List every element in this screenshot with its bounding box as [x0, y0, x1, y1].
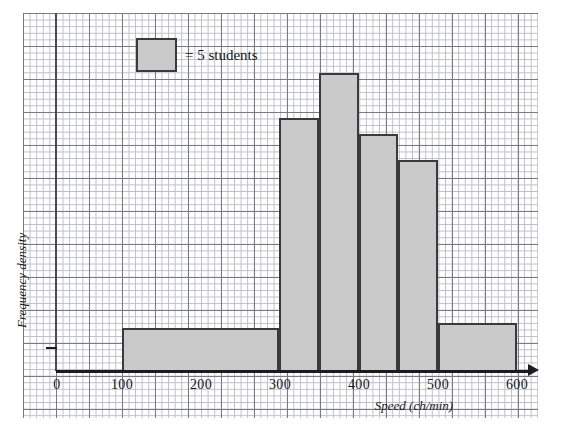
- x-tick-label-600: 600: [506, 377, 528, 393]
- histogram-bar: [438, 323, 517, 373]
- legend-swatch: [136, 38, 177, 72]
- histogram-bar: [398, 160, 438, 373]
- x-axis-arrow-icon: [528, 364, 539, 376]
- histogram-bar: [319, 73, 359, 373]
- x-tick-label-200: 200: [190, 377, 212, 393]
- x-tick-label-500: 500: [427, 377, 449, 393]
- histogram-bar: [122, 328, 279, 373]
- x-tick-label-0: 0: [53, 377, 60, 393]
- plot-area: 0 100 200 300 400 500 600 Speed (ch/min)…: [0, 0, 569, 435]
- histogram-chart: 0 100 200 300 400 500 600 Speed (ch/min)…: [0, 0, 569, 435]
- x-tick-label-400: 400: [348, 377, 370, 393]
- x-tick-label-100: 100: [111, 377, 133, 393]
- y-axis-tick: [46, 347, 57, 349]
- legend-label: = 5 students: [185, 47, 258, 64]
- x-tick-label-300: 300: [269, 377, 291, 393]
- legend: = 5 students: [136, 38, 258, 72]
- histogram-bar: [279, 118, 319, 373]
- y-axis-label: Frequency density: [14, 233, 30, 328]
- histogram-bar: [359, 134, 398, 373]
- x-axis: [56, 370, 530, 373]
- x-axis-label: Speed (ch/min): [375, 398, 453, 414]
- y-axis: [55, 13, 57, 371]
